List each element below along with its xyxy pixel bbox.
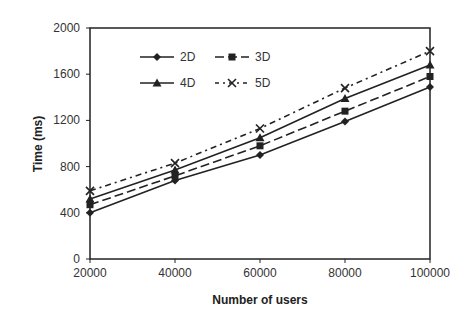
legend-label: 4D — [180, 76, 196, 90]
data-point-3D — [257, 142, 264, 149]
y-tick-label: 400 — [60, 206, 80, 220]
x-tick-label: 80000 — [328, 266, 362, 280]
x-tick-label: 20000 — [73, 266, 107, 280]
x-tick-label: 40000 — [158, 266, 192, 280]
y-tick-label: 2000 — [53, 21, 80, 35]
legend-label: 5D — [255, 76, 271, 90]
legend-marker-3D — [229, 54, 236, 61]
y-tick-label: 0 — [73, 252, 80, 266]
x-tick-label: 100000 — [410, 266, 450, 280]
x-tick-label: 60000 — [243, 266, 277, 280]
line-chart: 0400800120016002000 20000400006000080000… — [0, 0, 474, 328]
y-axis-label: Time (ms) — [31, 116, 45, 172]
y-tick-label: 800 — [60, 160, 80, 174]
legend-label: 2D — [180, 50, 196, 64]
legend-label: 3D — [255, 50, 271, 64]
x-axis-label: Number of users — [212, 293, 308, 307]
data-point-3D — [427, 73, 434, 80]
y-tick-label: 1600 — [53, 67, 80, 81]
data-point-3D — [342, 108, 349, 115]
y-tick-label: 1200 — [53, 113, 80, 127]
